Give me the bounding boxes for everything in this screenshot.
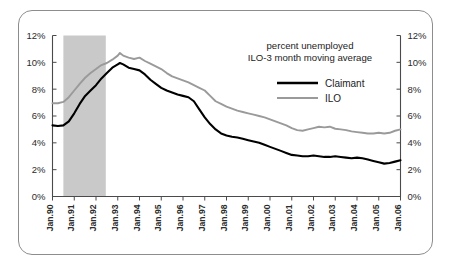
y-tick-label-left: 8%: [32, 84, 46, 95]
y-tick-label-right: 4%: [408, 137, 422, 148]
y-tick-label-left: 12%: [26, 30, 46, 41]
recession-shading: [63, 36, 105, 197]
x-tick-label: Jan.01: [284, 204, 294, 231]
recession-band: [63, 36, 105, 197]
y-tick-label-left: 0%: [32, 191, 46, 202]
x-tick-label: Jan.06: [393, 204, 403, 231]
x-tick-label: Jan.95: [153, 204, 163, 231]
chart-container: 0%2%4%6%8%10%12% 0%2%4%6%8%10%12% Jan.90…: [0, 0, 451, 269]
y-tick-label-right: 12%: [408, 30, 428, 41]
y-axis-right-labels: 0%2%4%6%8%10%12%: [408, 30, 428, 202]
y-tick-label-right: 2%: [408, 164, 422, 175]
x-tick-label: Jan.94: [132, 204, 142, 231]
unemployment-line-chart: 0%2%4%6%8%10%12% 0%2%4%6%8%10%12% Jan.90…: [0, 0, 451, 269]
annotation-line: percent unemployed: [267, 40, 354, 51]
x-tick-label: Jan.92: [88, 204, 98, 231]
x-tick-label: Jan.05: [371, 204, 381, 231]
chart-annotation: percent unemployedILO-3 month moving ave…: [248, 40, 372, 63]
x-tick-label: Jan.03: [327, 204, 337, 231]
y-tick-label-left: 4%: [32, 137, 46, 148]
x-tick-label: Jan.04: [349, 204, 359, 231]
x-axis-labels: Jan.90Jan.91Jan.92Jan.93Jan.94Jan.95Jan.…: [45, 204, 403, 231]
x-tick-label: Jan.90: [45, 204, 55, 231]
y-tick-label-left: 2%: [32, 164, 46, 175]
x-tick-label: Jan.97: [197, 204, 207, 231]
x-tick-label: Jan.99: [240, 204, 250, 231]
x-tick-label: Jan.96: [175, 204, 185, 231]
annotation-line: ILO-3 month moving average: [248, 52, 372, 63]
y-tick-label-right: 6%: [408, 110, 422, 121]
y-tick-label-left: 6%: [32, 110, 46, 121]
y-tick-label-right: 8%: [408, 84, 422, 95]
x-tick-label: Jan.98: [219, 204, 229, 231]
legend-label-ilo: ILO: [325, 93, 341, 104]
x-tick-label: Jan.93: [110, 204, 120, 231]
x-tick-label: Jan.02: [306, 204, 316, 231]
y-tick-label-right: 0%: [408, 191, 422, 202]
legend-label-claimant: Claimant: [325, 78, 365, 89]
y-axis-left-labels: 0%2%4%6%8%10%12%: [26, 30, 46, 202]
x-tick-label: Jan.00: [262, 204, 272, 231]
y-tick-label-left: 10%: [26, 57, 46, 68]
chart-legend: ClaimantILO: [277, 78, 365, 104]
y-tick-label-right: 10%: [408, 57, 428, 68]
x-tick-label: Jan.91: [66, 204, 76, 231]
